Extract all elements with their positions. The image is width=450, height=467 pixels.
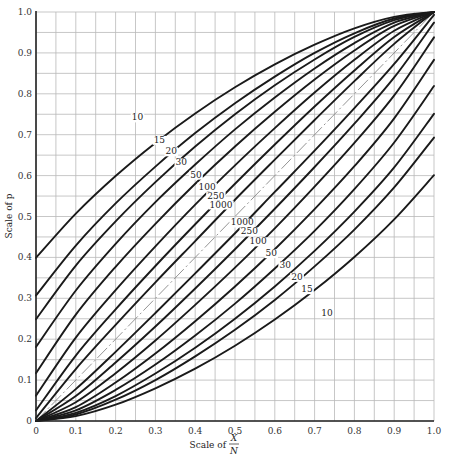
curve-label-lower-n250: 250 (241, 226, 258, 236)
x-tick-label: 0.8 (347, 426, 362, 436)
curve-label-upper-n30: 30 (176, 157, 188, 167)
x-tick-label: 0.1 (69, 426, 83, 436)
x-tick-label: 0.2 (108, 426, 122, 436)
y-tick-label: 0.2 (18, 334, 32, 344)
y-tick-label: 0.5 (18, 212, 33, 222)
x-axis-label-denominator: N (229, 446, 239, 456)
x-tick-label: 1.0 (427, 426, 442, 436)
curve-label-lower-n10: 10 (321, 308, 333, 318)
confidence-belt-chart: 00.10.20.30.40.50.60.70.80.91.0 00.10.20… (0, 0, 450, 467)
curve-label-upper-n50: 50 (190, 170, 202, 180)
x-axis-label-prefix: Scale of (190, 440, 227, 450)
y-axis-label: Scale of p (4, 193, 14, 238)
curve-label-upper-n1000: 1000 (210, 200, 233, 210)
curve-label-upper-n10: 10 (132, 112, 144, 122)
x-tick-label: 0.7 (307, 426, 322, 436)
x-axis-label: Scale of X N (190, 433, 239, 456)
x-tick-label: 0.4 (188, 426, 203, 436)
x-tick-label: 0.9 (387, 426, 402, 436)
y-tick-label: 1.0 (18, 7, 33, 17)
curve-label-lower-n15: 15 (301, 284, 313, 294)
curve-label-lower-n30: 30 (279, 260, 291, 270)
x-tick-label: 0 (33, 426, 39, 436)
curve-label-lower-n50: 50 (265, 248, 277, 258)
y-tick-label: 0.4 (18, 252, 33, 262)
y-tick-label: 0.7 (18, 130, 33, 140)
y-tick-label: 0.6 (18, 171, 33, 181)
y-tick-label: 0.3 (18, 293, 33, 303)
y-tick-label: 0.8 (18, 89, 33, 99)
x-axis-label-numerator: X (230, 433, 238, 443)
x-tick-label: 0.3 (148, 426, 163, 436)
curve-label-upper-n15: 15 (154, 135, 166, 145)
curve-labels: 1015203050100250100010002501005030201510 (131, 112, 334, 318)
curve-label-upper-n20: 20 (166, 146, 178, 156)
x-tick-label: 0.6 (268, 426, 283, 436)
y-tick-label: 0 (26, 416, 32, 426)
curve-label-lower-n100: 100 (249, 236, 266, 246)
y-tick-labels: 00.10.20.30.40.50.60.70.80.91.0 (18, 7, 33, 426)
y-tick-label: 0.1 (18, 375, 32, 385)
y-tick-label: 0.9 (18, 48, 33, 58)
x-tick-labels: 00.10.20.30.40.50.60.70.80.91.0 (33, 426, 441, 436)
curve-label-lower-n20: 20 (291, 272, 303, 282)
